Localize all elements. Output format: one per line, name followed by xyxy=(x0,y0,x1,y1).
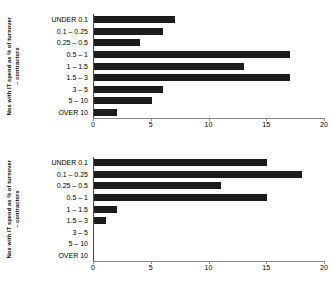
category-label: 0.25 – 0.5 xyxy=(30,180,91,192)
category-label: 3 – 5 xyxy=(30,83,91,95)
bar-row xyxy=(94,169,325,181)
x-axis-tick-label: 20 xyxy=(320,121,328,128)
bar xyxy=(94,74,290,81)
plot-area xyxy=(93,14,325,118)
x-axis-tick-label: 10 xyxy=(205,121,213,128)
bar-row xyxy=(94,215,325,227)
bar xyxy=(94,28,163,35)
bar-row xyxy=(94,49,325,61)
category-label: 1.5 – 3 xyxy=(30,72,91,84)
bar-row xyxy=(94,226,325,238)
category-label: UNDER 0.1 xyxy=(30,14,91,26)
x-axis-tick-label: 15 xyxy=(262,121,270,128)
y-axis-category-labels: UNDER 0.10.1 – 0.250.25 – 0.50.5 – 11 – … xyxy=(30,157,91,261)
category-label: 0.5 – 1 xyxy=(30,192,91,204)
x-axis-tick-label: 0 xyxy=(91,264,95,271)
bar-series xyxy=(94,14,325,118)
bar-row xyxy=(94,180,325,192)
category-label: OVER 10 xyxy=(30,107,91,119)
bar-row xyxy=(94,60,325,72)
figure-page: Nos with IT spend as % of turnover – con… xyxy=(0,0,332,285)
bar-row xyxy=(94,250,325,262)
bar xyxy=(94,16,175,23)
category-label: 0.1 – 0.25 xyxy=(30,169,91,181)
plot-area xyxy=(93,157,325,261)
y-axis-title-line2: – contractors xyxy=(14,2,22,130)
category-label: 1.5 – 3 xyxy=(30,215,91,227)
x-axis-tick-label: 0 xyxy=(91,121,95,128)
category-label: 5 – 10 xyxy=(30,238,91,250)
y-axis-title-line2: – contractors xyxy=(14,145,22,273)
x-axis-tick-label: 5 xyxy=(149,121,153,128)
x-axis-tick-label: 15 xyxy=(262,264,270,271)
category-label: 0.5 – 1 xyxy=(30,49,91,61)
bar-row xyxy=(94,238,325,250)
bar xyxy=(94,63,244,70)
category-label: 1 – 1.5 xyxy=(30,203,91,215)
category-label: OVER 10 xyxy=(30,250,91,262)
bar-row xyxy=(94,95,325,107)
bar-row xyxy=(94,192,325,204)
bar xyxy=(94,39,140,46)
bar xyxy=(94,51,290,58)
bar xyxy=(94,206,117,213)
x-axis-tick-label: 5 xyxy=(149,264,153,271)
bar xyxy=(94,217,106,224)
y-axis-category-labels: UNDER 0.10.1 – 0.250.25 – 0.50.5 – 11 – … xyxy=(30,14,91,118)
bar-chart-top: Nos with IT spend as % of turnover – con… xyxy=(0,0,332,142)
bar-row xyxy=(94,107,325,119)
bar-row xyxy=(94,203,325,215)
x-axis-tick-label: 20 xyxy=(320,264,328,271)
x-axis-tick-labels: 05101520 xyxy=(93,121,325,133)
bar-row xyxy=(94,72,325,84)
category-label: 0.25 – 0.5 xyxy=(30,37,91,49)
y-axis-title-line1: Nos with IT spend as % of turnover xyxy=(6,2,14,130)
category-label: UNDER 0.1 xyxy=(30,157,91,169)
bar-row xyxy=(94,14,325,26)
category-label: 1 – 1.5 xyxy=(30,60,91,72)
bar xyxy=(94,182,221,189)
bar xyxy=(94,109,117,116)
bar xyxy=(94,97,152,104)
category-label: 5 – 10 xyxy=(30,95,91,107)
bar-row xyxy=(94,37,325,49)
bar-row xyxy=(94,26,325,38)
bar-series xyxy=(94,157,325,261)
bar-row xyxy=(94,157,325,169)
y-axis-title-line1: Nos with IT spend as % of turnover xyxy=(6,145,14,273)
bar xyxy=(94,171,302,178)
bar xyxy=(94,159,267,166)
bar xyxy=(94,194,267,201)
category-label: 3 – 5 xyxy=(30,226,91,238)
bar-chart-bottom: Nos with IT spend as % of turnover – con… xyxy=(0,143,332,285)
bar-row xyxy=(94,83,325,95)
x-axis-tick-labels: 05101520 xyxy=(93,264,325,276)
x-axis-tick-label: 10 xyxy=(205,264,213,271)
bar xyxy=(94,86,163,93)
category-label: 0.1 – 0.25 xyxy=(30,26,91,38)
